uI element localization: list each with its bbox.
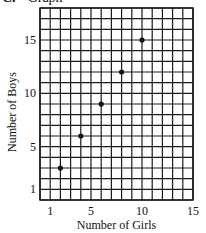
y-tick-label: 1 xyxy=(30,182,36,196)
x-axis-ticks: 151015 xyxy=(47,204,199,218)
plot-grid xyxy=(40,8,193,200)
x-tick-label: 10 xyxy=(136,204,148,218)
y-axis-title: Number of Boys xyxy=(5,72,19,152)
scatter-plot: 151015 151015 Number of Girls Number of … xyxy=(0,0,206,233)
data-point xyxy=(139,37,144,42)
x-tick-label: 5 xyxy=(88,204,94,218)
x-tick-label: 15 xyxy=(187,204,199,218)
data-point xyxy=(78,133,83,138)
y-axis-ticks: 151015 xyxy=(24,33,36,196)
data-point xyxy=(119,69,124,74)
data-point xyxy=(58,165,63,170)
data-point xyxy=(99,101,104,106)
x-tick-label: 1 xyxy=(47,204,53,218)
y-tick-label: 5 xyxy=(30,140,36,154)
x-axis-title: Number of Girls xyxy=(77,218,157,232)
y-tick-label: 10 xyxy=(24,86,36,100)
y-tick-label: 15 xyxy=(24,33,36,47)
